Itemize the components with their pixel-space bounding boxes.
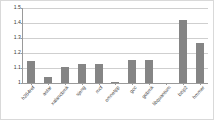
bars-group xyxy=(23,8,208,83)
x-axis-label: astar xyxy=(42,85,53,97)
bar-slot xyxy=(158,8,175,83)
y-tick-label: 1.1 xyxy=(14,65,21,70)
y-tick-label: 1.4 xyxy=(14,20,21,25)
x-axis-label: gcc xyxy=(129,85,138,94)
x-axis-label: sjeng xyxy=(75,85,87,97)
bar-slot xyxy=(174,8,191,83)
x-axis-labels: h264refastarxalancbmksjengmcfomnetppgccg… xyxy=(22,85,208,120)
x-axis-label: omnetpp xyxy=(104,85,121,103)
bar-slot xyxy=(57,8,74,83)
x-axis-label: hmmer xyxy=(191,85,205,100)
bar-slot xyxy=(191,8,208,83)
bar-slot xyxy=(40,8,57,83)
x-axis-label: xalancbmk xyxy=(50,85,70,106)
bar xyxy=(27,61,35,84)
y-tick-label: 1.3 xyxy=(14,35,21,40)
bar xyxy=(196,43,204,83)
bar xyxy=(145,60,153,83)
bar-slot xyxy=(107,8,124,83)
bar-slot xyxy=(23,8,40,83)
y-tick-label: 1.5 xyxy=(14,5,21,10)
x-axis-label: h264ref xyxy=(21,85,36,101)
bar-slot xyxy=(141,8,158,83)
bar xyxy=(61,67,69,84)
bar xyxy=(95,64,103,84)
y-tick-label: 1 xyxy=(18,80,21,85)
bar xyxy=(179,20,187,83)
bar-slot xyxy=(90,8,107,83)
x-axis-label: gobmk xyxy=(141,85,155,100)
y-tick-label: 1.2 xyxy=(14,50,21,55)
bar xyxy=(128,60,136,83)
bar-chart: 11.11.21.31.41.5 h264refastarxalancbmksj… xyxy=(0,0,214,120)
bar-slot xyxy=(124,8,141,83)
x-axis-label: bzip2 xyxy=(177,85,189,97)
plot-area: 11.11.21.31.41.5 xyxy=(22,8,208,84)
x-axis-label: mcf xyxy=(95,85,104,94)
bar-slot xyxy=(73,8,90,83)
y-tick-mark xyxy=(21,83,23,84)
bar xyxy=(78,64,86,84)
